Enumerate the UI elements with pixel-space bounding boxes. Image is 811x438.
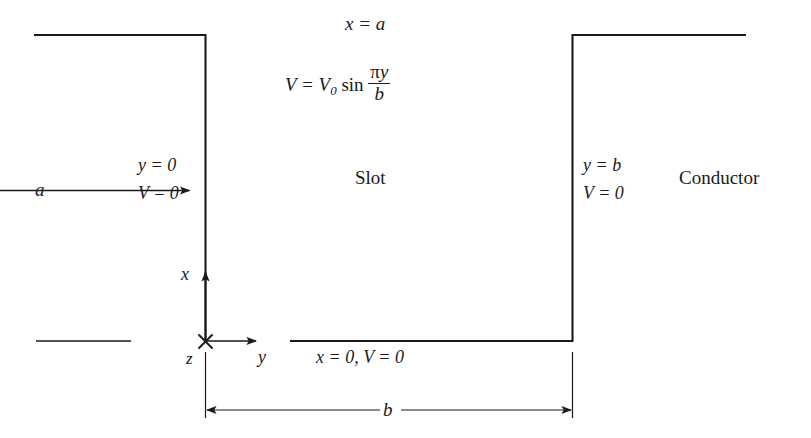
axis-label-z: z — [186, 350, 193, 367]
boundary-condition-bottom-wall: x = 0, V = 0 — [316, 348, 404, 366]
dimension-label-a: a — [35, 180, 45, 199]
right-wall-line-2: V = 0 — [583, 180, 624, 208]
dimension-label-b: b — [383, 400, 393, 419]
boundary-condition-top-x-equals-a: x = a — [345, 14, 385, 33]
axis-label-y: y — [258, 348, 266, 366]
left-wall-line-2: V = 0 — [138, 180, 179, 208]
left-wall-line-1: y = 0 — [138, 152, 179, 180]
boundary-condition-left-wall: y = 0 V = 0 — [138, 152, 179, 208]
figure-canvas: x = a V = V0 sin πyb y = 0 V = 0 y = b V… — [0, 0, 811, 438]
axis-label-x: x — [181, 265, 189, 283]
conductor-region-label: Conductor — [679, 168, 759, 187]
boundary-condition-right-wall: y = b V = 0 — [583, 152, 624, 208]
slot-region-label: Slot — [355, 168, 386, 187]
boundary-condition-top-potential: V = V0 sin πyb — [285, 62, 390, 104]
slot-geometry-drawing — [0, 0, 811, 438]
right-wall-line-1: y = b — [583, 152, 624, 180]
